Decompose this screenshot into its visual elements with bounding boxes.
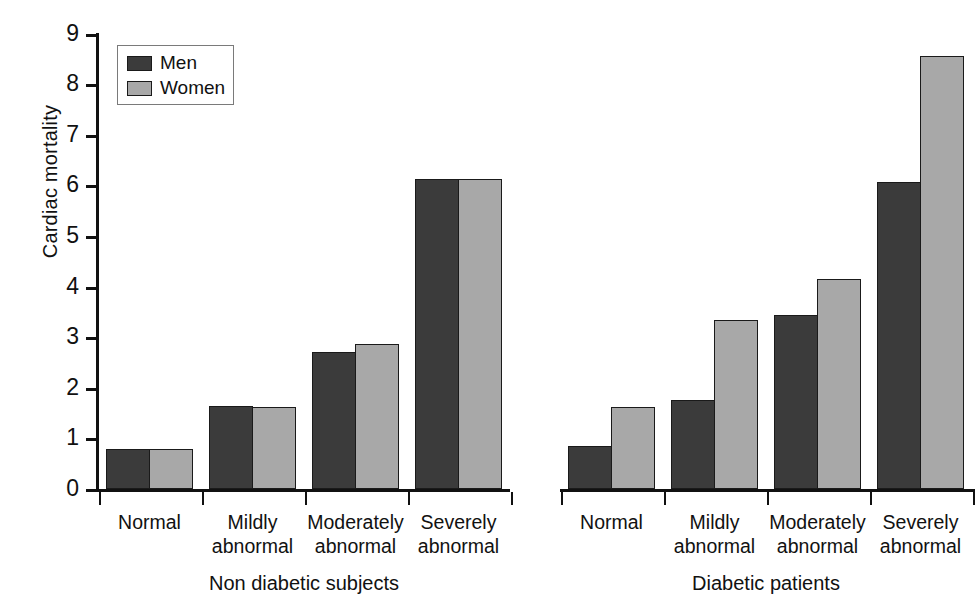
bar-chart-figure: Cardiac mortality 9876543210 Men Women N… (0, 0, 980, 616)
group-label-left: Non diabetic subjects (98, 572, 510, 595)
y-tick-label-3: 3 (66, 324, 79, 348)
legend-item-women: Women (127, 77, 225, 99)
x-tick-left-3 (408, 492, 410, 505)
y-tick-label-8: 8 (66, 71, 79, 95)
bar-right-mildly-abnormal-men (671, 400, 715, 489)
y-tick-1: 1 (86, 438, 97, 441)
y-tick-label-5: 5 (66, 223, 79, 247)
bar-right-normal-men (568, 446, 612, 489)
bar-right-moderately-abnormal-women (817, 279, 861, 489)
bar-right-normal-women (611, 407, 655, 489)
x-category-label-right-3: Severely abnormal (853, 510, 980, 558)
x-tick-left-0 (99, 492, 101, 505)
y-tick-label-2: 2 (66, 375, 79, 399)
legend-label-women: Women (160, 78, 225, 98)
x-axis-line-left (98, 489, 510, 492)
bar-right-mildly-abnormal-women (714, 320, 758, 489)
bar-left-severely-abnormal-men (415, 179, 459, 489)
x-tick-right-0 (561, 492, 563, 505)
x-tick-right-2 (767, 492, 769, 505)
y-tick-label-0: 0 (66, 476, 79, 500)
y-tick-label-4: 4 (66, 274, 79, 298)
y-tick-0: 0 (86, 489, 97, 492)
y-tick-6: 6 (86, 185, 97, 188)
bar-right-moderately-abnormal-men (774, 315, 818, 489)
y-tick-label-6: 6 (66, 172, 79, 196)
bar-left-moderately-abnormal-women (355, 344, 399, 489)
y-tick-label-1: 1 (66, 425, 79, 449)
legend-swatch-women-icon (127, 81, 152, 96)
y-axis-label: Cardiac mortality (39, 0, 62, 382)
bar-left-mildly-abnormal-men (209, 406, 253, 489)
y-tick-8: 8 (86, 84, 97, 87)
y-tick-3: 3 (86, 337, 97, 340)
bar-left-severely-abnormal-women (458, 179, 502, 489)
legend-item-men: Men (127, 52, 197, 74)
legend-label-men: Men (160, 53, 197, 73)
y-tick-9: 9 (86, 34, 97, 37)
y-tick-4: 4 (86, 287, 97, 290)
y-tick-5: 5 (86, 236, 97, 239)
bar-left-mildly-abnormal-women (252, 407, 296, 489)
y-tick-label-9: 9 (66, 21, 79, 45)
y-axis-line (96, 33, 99, 492)
x-tick-left-end (511, 492, 513, 505)
x-tick-left-2 (305, 492, 307, 505)
bar-left-moderately-abnormal-men (312, 352, 356, 489)
y-tick-7: 7 (86, 135, 97, 138)
group-label-right: Diabetic patients (560, 572, 972, 595)
legend: Men Women (117, 45, 234, 105)
x-tick-right-3 (870, 492, 872, 505)
bar-right-severely-abnormal-men (877, 182, 921, 489)
x-tick-right-1 (664, 492, 666, 505)
legend-swatch-men-icon (127, 56, 152, 71)
x-tick-left-1 (202, 492, 204, 505)
bar-left-normal-men (106, 449, 150, 489)
y-tick-label-7: 7 (66, 122, 79, 146)
y-tick-2: 2 (86, 388, 97, 391)
x-tick-right-end (973, 492, 975, 505)
bar-left-normal-women (149, 449, 193, 489)
x-category-label-left-3: Severely abnormal (391, 510, 526, 558)
bar-right-severely-abnormal-women (920, 56, 964, 489)
